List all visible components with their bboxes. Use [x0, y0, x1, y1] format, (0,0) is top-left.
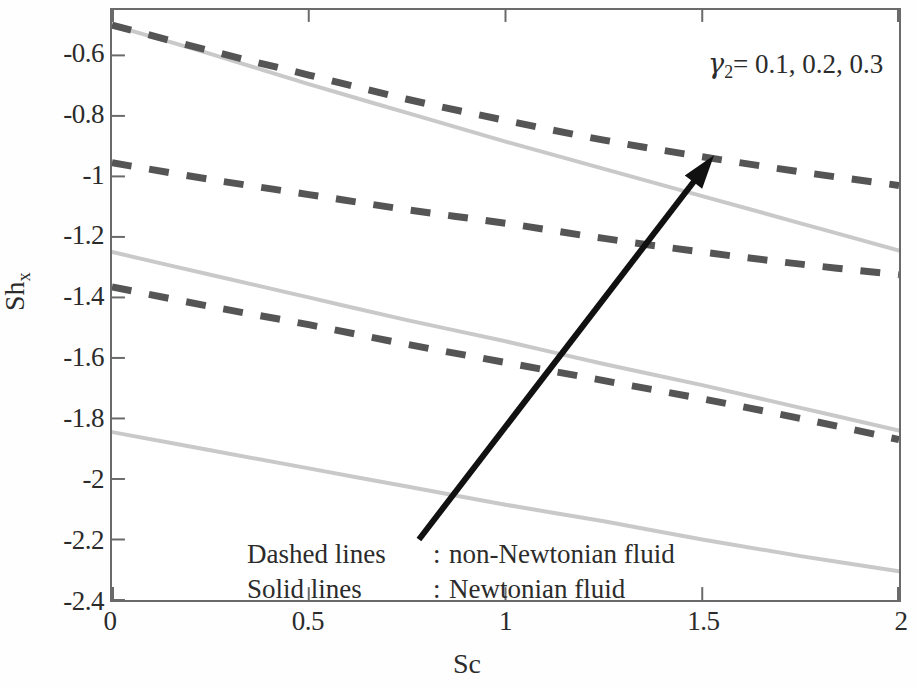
legend-note: Dashed lines : non-Newtonian fluid Solid… [247, 537, 675, 606]
figure-container: -0.6-0.8-1-1.2-1.4-1.6-1.8-2-2.2-2.4 Shx… [0, 0, 916, 687]
y-tick-label: -0.6 [63, 40, 104, 67]
x-tick-label: 0.5 [292, 608, 324, 635]
y-axis-title-subscript: x [14, 272, 34, 281]
legend-key-dashed: Dashed lines [247, 537, 433, 572]
gamma-subscript: 2 [724, 62, 733, 82]
x-tick-label: 1 [499, 608, 512, 635]
solid-line-series-group [112, 25, 899, 571]
y-axis-title-text: Sh [0, 281, 30, 311]
legend-row-solid: Solid lines : Newtonian fluid [247, 572, 675, 607]
x-tick-label: 1.5 [687, 608, 719, 635]
y-tick-label: -2 [83, 466, 105, 493]
gamma-symbol: γ [708, 48, 724, 79]
x-axis-title-text: Sc [453, 648, 481, 679]
y-tick-label: -1 [83, 162, 105, 189]
chart-curves [112, 10, 899, 600]
legend-value-dashed: non-Newtonian fluid [449, 537, 675, 572]
x-tick-label: 2 [895, 608, 908, 635]
x-axis-title: Sc [0, 648, 916, 680]
y-tick-label: -0.8 [63, 101, 104, 128]
increasing-gamma2-arrow [419, 155, 714, 539]
solid-curve [112, 252, 899, 431]
legend-colon-dashed: : [433, 537, 449, 572]
y-tick-label: -1.4 [63, 283, 104, 310]
plot-area: γ2= 0.1, 0.2, 0.3 Dashed lines : non-New… [110, 8, 901, 602]
x-tick-label: 0 [104, 608, 117, 635]
y-tick-label: -1.2 [63, 222, 104, 249]
y-tick-label: -2.4 [63, 588, 104, 615]
gamma-values: = 0.1, 0.2, 0.3 [733, 49, 883, 79]
dashed-curve [112, 287, 899, 440]
axis-tick-marks [112, 10, 898, 600]
legend-colon-solid: : [433, 572, 449, 607]
y-axis-tick-labels: -0.6-0.8-1-1.2-1.4-1.6-1.8-2-2.2-2.4 [0, 0, 104, 687]
legend-row-dashed: Dashed lines : non-Newtonian fluid [247, 537, 675, 572]
gamma2-annotation: γ2= 0.1, 0.2, 0.3 [708, 48, 883, 83]
legend-value-solid: Newtonian fluid [449, 572, 625, 607]
legend-key-solid: Solid lines [247, 572, 433, 607]
y-tick-label: -1.8 [63, 405, 104, 432]
y-axis-title: Shx [0, 247, 35, 337]
y-tick-label: -1.6 [63, 344, 104, 371]
dashed-line-series-group [112, 25, 899, 440]
y-tick-label: -2.2 [63, 527, 104, 554]
